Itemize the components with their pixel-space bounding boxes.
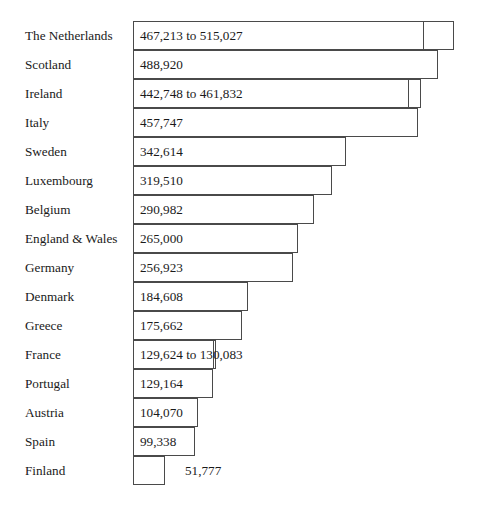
chart-row: Denmark184,608 — [0, 282, 488, 311]
chart-row: Finland51,777 — [0, 456, 488, 485]
category-label: England & Wales — [25, 224, 117, 253]
category-label: Greece — [25, 311, 62, 340]
bar-value-label: 99,338 — [133, 427, 176, 456]
bar-value-label: 51,777 — [185, 456, 221, 485]
category-label: The Netherlands — [25, 21, 113, 50]
category-label: Germany — [25, 253, 74, 282]
chart-row: France129,624 to 130,083 — [0, 340, 488, 369]
chart-row: Spain99,338 — [0, 427, 488, 456]
category-label: Ireland — [25, 79, 62, 108]
category-label: Italy — [25, 108, 49, 137]
bar-value-label: 457,747 — [133, 108, 183, 137]
chart-row: Scotland488,920 — [0, 50, 488, 79]
bar-value-label: 256,923 — [133, 253, 183, 282]
horizontal-bar-chart: The Netherlands467,213 to 515,027Scotlan… — [0, 0, 488, 505]
category-label: Denmark — [25, 282, 74, 311]
bar-value-label: 175,662 — [133, 311, 183, 340]
bar-value-label: 290,982 — [133, 195, 183, 224]
chart-row: England & Wales265,000 — [0, 224, 488, 253]
bar-value-label: 184,608 — [133, 282, 183, 311]
category-label: Belgium — [25, 195, 70, 224]
bar-range-extension — [424, 21, 454, 50]
chart-row: Germany256,923 — [0, 253, 488, 282]
bar-value-label: 129,164 — [133, 369, 183, 398]
category-label: Sweden — [25, 137, 67, 166]
chart-row: Ireland442,748 to 461,832 — [0, 79, 488, 108]
chart-row: Austria104,070 — [0, 398, 488, 427]
chart-row: Greece175,662 — [0, 311, 488, 340]
category-label: Austria — [25, 398, 64, 427]
bar-value-label: 467,213 to 515,027 — [133, 21, 243, 50]
bar-value-label: 104,070 — [133, 398, 183, 427]
bar-range-extension — [409, 79, 421, 108]
bar-value-label: 442,748 to 461,832 — [133, 79, 243, 108]
bar-value-label: 488,920 — [133, 50, 183, 79]
category-label: Luxembourg — [25, 166, 93, 195]
bar — [133, 456, 165, 485]
bar-value-label: 265,000 — [133, 224, 183, 253]
category-label: Scotland — [25, 50, 71, 79]
chart-row: Sweden342,614 — [0, 137, 488, 166]
category-label: Portugal — [25, 369, 70, 398]
bar-value-label: 319,510 — [133, 166, 183, 195]
chart-row: The Netherlands467,213 to 515,027 — [0, 21, 488, 50]
chart-row: Portugal129,164 — [0, 369, 488, 398]
category-label: Spain — [25, 427, 55, 456]
category-label: France — [25, 340, 61, 369]
bar-value-label: 342,614 — [133, 137, 183, 166]
bar-value-label: 129,624 to 130,083 — [133, 340, 243, 369]
chart-row: Belgium290,982 — [0, 195, 488, 224]
category-label: Finland — [25, 456, 65, 485]
chart-row: Luxembourg319,510 — [0, 166, 488, 195]
chart-row: Italy457,747 — [0, 108, 488, 137]
